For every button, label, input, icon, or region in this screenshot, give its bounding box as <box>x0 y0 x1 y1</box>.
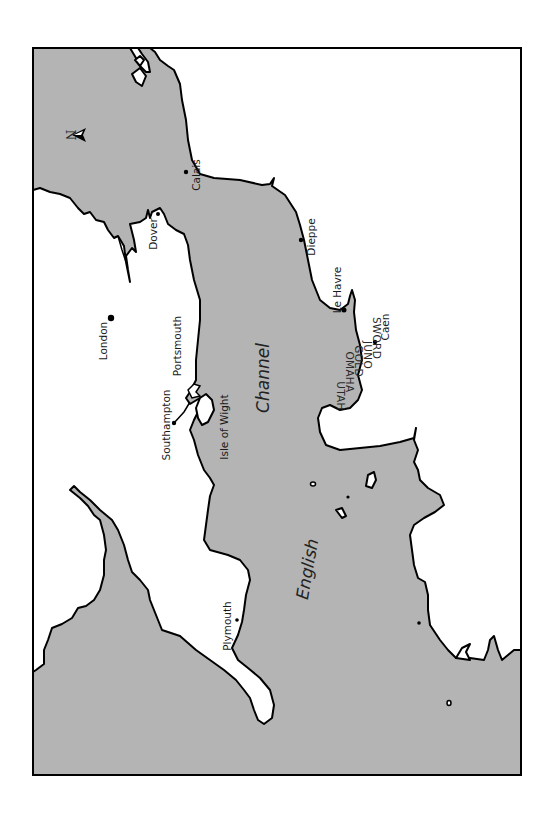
london-label: London <box>97 322 109 361</box>
dieppe-label: Dieppe <box>305 218 317 255</box>
dover-label: Dover <box>147 218 159 250</box>
small-island-2 <box>447 701 451 706</box>
channel-map: N Calais Dover London Dieppe Le Havre Ca… <box>0 0 551 819</box>
north-label: N <box>63 130 77 141</box>
calais-dot <box>184 170 188 174</box>
isle-of-wight-label: Isle of Wight <box>218 394 230 459</box>
north-arrow-icon: N <box>63 128 86 142</box>
le-havre-label: Le Havre <box>331 267 343 314</box>
dover-dot <box>156 212 160 216</box>
map-container: N Calais Dover London Dieppe Le Havre Ca… <box>0 0 551 819</box>
portsmouth-label: Portsmouth <box>171 316 183 376</box>
southampton-label: Southampton <box>160 389 172 460</box>
small-islet <box>346 495 349 498</box>
small-island-1 <box>311 482 316 486</box>
calais-label: Calais <box>190 159 202 191</box>
dieppe-dot <box>299 238 303 242</box>
channel-label: Channel <box>253 343 273 413</box>
plymouth-label: Plymouth <box>221 601 233 651</box>
london-dot <box>108 315 114 321</box>
brittany-islet <box>417 621 421 625</box>
plymouth-dot <box>235 618 239 622</box>
sword-beach-label: SWORD <box>371 317 383 359</box>
